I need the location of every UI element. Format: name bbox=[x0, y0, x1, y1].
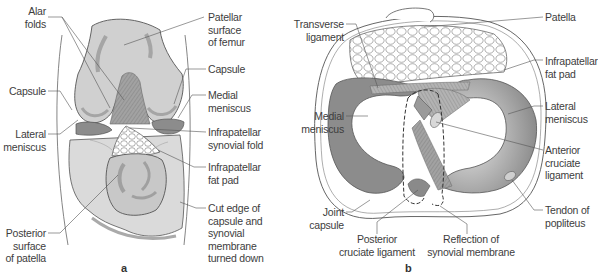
label-line: popliteus bbox=[545, 217, 589, 230]
label-line: capsule and bbox=[208, 215, 264, 228]
label-line: synovial bbox=[208, 227, 264, 240]
label-line: membrane bbox=[208, 240, 264, 253]
label-line: Medial bbox=[208, 89, 251, 102]
label-line: Infrapatellar bbox=[208, 161, 261, 174]
label-posterior-cruciate-ligament: Posterior cruciate ligament bbox=[337, 233, 417, 258]
label-line: Posterior bbox=[0, 227, 46, 240]
panel-b-drawing bbox=[315, 8, 547, 218]
label-line: Anterior bbox=[545, 144, 583, 157]
label-reflection-of-synovial-membrane: Reflection of synovial membrane bbox=[425, 233, 517, 258]
label-infrapatellar-fat-pad-b: Infrapatellar fat pad bbox=[545, 55, 598, 80]
label-line: ligament bbox=[282, 31, 344, 44]
label-line: of patella bbox=[0, 252, 46, 265]
label-line: Posterior bbox=[337, 233, 417, 246]
label-lateral-meniscus-b: Lateral meniscus bbox=[545, 100, 588, 125]
panel-label-a: a bbox=[121, 262, 127, 274]
label-line: Lateral bbox=[545, 100, 588, 113]
label-medial-meniscus-a: Medial meniscus bbox=[208, 89, 251, 114]
panel-label-b: b bbox=[405, 262, 412, 274]
label-line: Reflection of bbox=[425, 233, 517, 246]
label-line: Patella bbox=[545, 11, 576, 24]
label-line: fat pad bbox=[545, 68, 598, 81]
label-line: meniscus bbox=[0, 141, 46, 154]
label-tendon-of-popliteus: Tendon of popliteus bbox=[545, 204, 589, 229]
label-line: Joint bbox=[282, 206, 344, 219]
label-line: surface bbox=[0, 240, 46, 253]
label-line: meniscus bbox=[545, 113, 588, 126]
label-line: cruciate bbox=[545, 157, 583, 170]
label-line: Medial bbox=[282, 110, 344, 123]
label-line: surface bbox=[208, 24, 245, 37]
label-line: Cut edge of bbox=[208, 202, 264, 215]
label-cut-edge-of-capsule: Cut edge of capsule and synovial membran… bbox=[208, 202, 264, 265]
label-line: Infrapatellar bbox=[208, 126, 263, 139]
label-line: synovial membrane bbox=[425, 246, 517, 259]
label-transverse-ligament: Transverse ligament bbox=[282, 18, 344, 43]
label-capsule-right: Capsule bbox=[208, 63, 245, 76]
label-line: meniscus bbox=[208, 102, 251, 115]
label-lateral-meniscus: Lateral meniscus bbox=[0, 128, 46, 153]
label-medial-meniscus-b: Medial meniscus bbox=[282, 110, 344, 135]
label-line: Infrapatellar bbox=[545, 55, 598, 68]
panel-a-drawing bbox=[57, 19, 190, 245]
label-line: folds bbox=[4, 18, 46, 31]
label-alar-folds: Alar folds bbox=[4, 5, 46, 30]
label-line: Capsule bbox=[0, 85, 46, 98]
label-line: cruciate ligament bbox=[337, 246, 417, 259]
label-patellar-surface-of-femur: Patellar surface of femur bbox=[208, 11, 245, 49]
label-line: Lateral bbox=[0, 128, 46, 141]
label-line: fat pad bbox=[208, 174, 261, 187]
label-line: Capsule bbox=[208, 63, 245, 76]
label-line: of femur bbox=[208, 36, 245, 49]
label-anterior-cruciate-ligament: Anterior cruciate ligament bbox=[545, 144, 583, 182]
label-line: synovial fold bbox=[208, 139, 263, 152]
label-capsule-left: Capsule bbox=[0, 85, 46, 98]
label-line: Patellar bbox=[208, 11, 245, 24]
label-patella: Patella bbox=[545, 11, 576, 24]
label-posterior-surface-of-patella: Posterior surface of patella bbox=[0, 227, 46, 265]
label-line: ligament bbox=[545, 169, 583, 182]
label-line: Transverse bbox=[282, 18, 344, 31]
label-line: Alar bbox=[4, 5, 46, 18]
label-infrapatellar-fat-pad-a: Infrapatellar fat pad bbox=[208, 161, 261, 186]
label-infrapatellar-synovial-fold: Infrapatellar synovial fold bbox=[208, 126, 263, 151]
label-line: Tendon of bbox=[545, 204, 589, 217]
label-line: capsule bbox=[282, 219, 344, 232]
label-line: meniscus bbox=[282, 123, 344, 136]
label-joint-capsule: Joint capsule bbox=[282, 206, 344, 231]
label-line: turned down bbox=[208, 252, 264, 265]
